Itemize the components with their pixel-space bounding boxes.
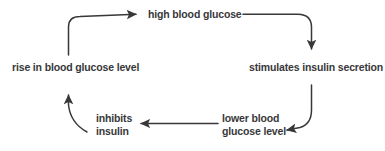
diagram-canvas: high blood glucose stimulates insulin se…	[0, 0, 385, 151]
node-inhibits-insulin: inhibits insulin	[96, 112, 152, 138]
arrow-inhibits-to-rise	[69, 95, 88, 132]
node-lower-blood-glucose-level: lower blood glucose level	[222, 112, 294, 138]
node-high-blood-glucose: high blood glucose	[148, 8, 242, 21]
node-rise-in-blood-glucose-level: rise in blood glucose level	[12, 61, 139, 74]
arrow-rise-to-high	[69, 14, 137, 55]
diagram-arrows	[0, 0, 385, 151]
node-stimulates-insulin-secretion: stimulates insulin secretion	[249, 61, 383, 74]
arrow-high-to-stimulates	[243, 14, 312, 49]
